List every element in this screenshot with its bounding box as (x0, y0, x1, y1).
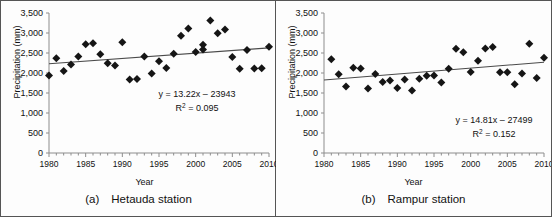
data-point-marker (236, 65, 244, 73)
y-tick-label: 3,500 (20, 8, 43, 18)
caption-label-rampur: Rampur station (388, 193, 466, 205)
data-point-marker (364, 84, 372, 92)
data-point-marker (386, 77, 394, 85)
data-point-marker (423, 72, 431, 80)
data-point-marker (118, 38, 126, 46)
data-point-marker (489, 43, 497, 51)
data-point-marker (96, 50, 104, 58)
chart-panel-hetauda: 05001,0001,5002,0002,5003,0003,500198019… (1, 1, 276, 216)
plot-area-rampur: 05001,0001,5002,0002,5003,0003,500198019… (276, 1, 551, 181)
y-tick-label: 2,500 (295, 48, 318, 58)
y-tick-label: 0 (38, 148, 43, 158)
data-point-marker (148, 69, 156, 77)
panel-caption-hetauda: (a)Hetauda station (1, 193, 276, 205)
y-tick-label: 1,000 (295, 108, 318, 118)
scatter-chart-rampur: 05001,0001,5002,0002,5003,0003,500198019… (276, 1, 551, 181)
data-point-marker (518, 69, 526, 77)
data-point-marker (60, 67, 68, 75)
data-point-marker (265, 43, 273, 51)
data-point-marker (52, 54, 60, 62)
data-point-marker (192, 48, 200, 56)
x-tick-label: 2010 (535, 159, 551, 169)
data-point-marker (228, 53, 236, 61)
data-point-marker (177, 32, 185, 40)
data-point-marker (511, 80, 519, 88)
data-point-marker (415, 75, 423, 83)
data-point-marker (140, 52, 148, 60)
y-tick-label: 0 (313, 148, 318, 158)
data-point-marker (82, 40, 90, 48)
x-tick-label: 1990 (113, 159, 132, 169)
data-point-marker (459, 48, 467, 56)
data-point-marker (540, 54, 548, 62)
data-point-marker (357, 65, 365, 73)
x-tick-label: 1995 (425, 159, 444, 169)
data-point-marker (408, 86, 416, 94)
y-tick-label: 2,000 (20, 68, 43, 78)
data-point-marker (379, 78, 387, 86)
x-axis-label-hetauda: Year (7, 177, 282, 187)
y-tick-label: 3,000 (20, 28, 43, 38)
x-tick-label: 1985 (76, 159, 95, 169)
data-point-marker (496, 68, 504, 76)
caption-tag-hetauda: (a) (85, 193, 99, 205)
data-point-marker (327, 55, 335, 63)
y-tick-label: 3,000 (295, 28, 318, 38)
trendline-equation-label: y = 13.22x – 23943 (159, 89, 236, 99)
x-tick-label: 2000 (186, 159, 205, 169)
data-point-marker (162, 64, 170, 72)
data-point-marker (349, 64, 357, 72)
data-point-marker (170, 50, 178, 58)
data-point-marker (430, 71, 438, 79)
y-tick-label: 3,500 (295, 8, 318, 18)
data-point-marker (533, 74, 541, 82)
data-point-marker (206, 17, 214, 25)
data-point-marker (335, 70, 343, 78)
data-point-marker (89, 39, 97, 47)
data-point-marker (155, 57, 163, 65)
caption-label-hetauda: Hetauda station (111, 193, 192, 205)
figure-container: 05001,0001,5002,0002,5003,0003,500198019… (0, 0, 552, 217)
scatter-chart-hetauda: 05001,0001,5002,0002,5003,0003,500198019… (1, 1, 276, 181)
plot-area-hetauda: 05001,0001,5002,0002,5003,0003,500198019… (1, 1, 276, 181)
x-axis-label-rampur: Year (276, 177, 551, 187)
data-point-marker (214, 29, 222, 37)
y-axis-label-rampur: Precipitation (mm) (287, 2, 297, 122)
x-tick-label: 2010 (260, 159, 276, 169)
data-point-marker (393, 84, 401, 92)
y-tick-label: 1,000 (20, 108, 43, 118)
data-point-marker (437, 79, 445, 87)
data-point-marker (243, 46, 251, 54)
x-tick-label: 2005 (223, 159, 242, 169)
x-tick-label: 1980 (40, 159, 59, 169)
panel-caption-rampur: (b)Rampur station (276, 193, 551, 205)
r-squared-label: R2 = 0.095 (176, 102, 219, 113)
data-point-marker (104, 59, 112, 67)
y-axis-label-hetauda: Precipitation (mm) (12, 2, 22, 122)
y-tick-label: 2,500 (20, 48, 43, 58)
y-tick-label: 2,000 (295, 68, 318, 78)
data-point-marker (250, 64, 258, 72)
data-point-marker (525, 40, 533, 48)
r-squared-label: R2 = 0.152 (473, 128, 516, 139)
data-point-marker (342, 83, 350, 91)
trendline-equation-label: y = 14.81x – 27499 (456, 115, 533, 125)
x-tick-label: 1980 (315, 159, 334, 169)
y-tick-label: 1,500 (295, 88, 318, 98)
data-point-marker (401, 75, 409, 83)
x-tick-label: 1990 (388, 159, 407, 169)
y-tick-label: 1,500 (20, 88, 43, 98)
chart-panel-rampur: 05001,0001,5002,0002,5003,0003,500198019… (276, 1, 551, 216)
x-tick-label: 2000 (461, 159, 480, 169)
data-point-marker (126, 76, 134, 84)
data-point-marker (133, 75, 141, 83)
y-tick-label: 500 (303, 128, 318, 138)
x-tick-label: 1995 (150, 159, 169, 169)
x-tick-label: 1985 (351, 159, 370, 169)
caption-tag-rampur: (b) (361, 193, 375, 205)
data-point-marker (474, 57, 482, 65)
data-point-marker (74, 53, 82, 61)
data-point-marker (481, 44, 489, 52)
data-point-marker (184, 24, 192, 32)
data-point-marker (503, 68, 511, 76)
